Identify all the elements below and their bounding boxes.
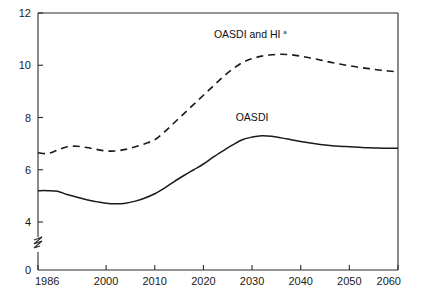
line-chart: 04681012 1986200020102020203020402050206… [0, 0, 421, 300]
x-tick-label: 2020 [191, 275, 215, 287]
y-tick-label: 8 [25, 112, 31, 124]
y-tick-label: 6 [25, 164, 31, 176]
y-tick-label: 0 [25, 264, 31, 276]
x-tick-label: 1986 [35, 275, 59, 287]
chart-container: 04681012 1986200020102020203020402050206… [0, 0, 421, 300]
x-tick-label: 2050 [337, 275, 361, 287]
y-tick-label: 12 [19, 7, 31, 19]
x-tick-label: 2030 [240, 275, 264, 287]
y-tick-label: 10 [19, 59, 31, 71]
x-tick-label: 2010 [143, 275, 167, 287]
series-label-oasdi-and-hi: OASDI and HI [214, 28, 281, 40]
x-tick-label: 2060 [377, 275, 401, 287]
chart-background [0, 0, 421, 300]
y-tick-label: 4 [25, 216, 31, 228]
x-tick-label: 2000 [94, 275, 118, 287]
x-tick-label: 2040 [288, 275, 312, 287]
series-label-oasdi: OASDI [236, 111, 269, 123]
